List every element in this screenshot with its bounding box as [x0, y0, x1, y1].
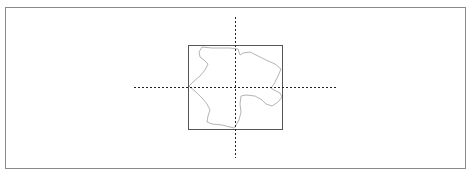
map-canvas[interactable] [0, 0, 471, 176]
